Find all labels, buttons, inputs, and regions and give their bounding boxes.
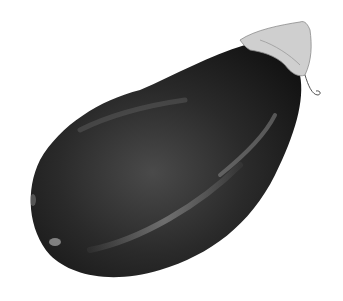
highlight-spot (30, 194, 36, 206)
highlight-spot (49, 238, 61, 246)
eggplant-illustration (0, 0, 343, 301)
stem-tendril (305, 75, 320, 95)
illustration-canvas (0, 0, 343, 301)
eggplant-body (31, 45, 302, 278)
